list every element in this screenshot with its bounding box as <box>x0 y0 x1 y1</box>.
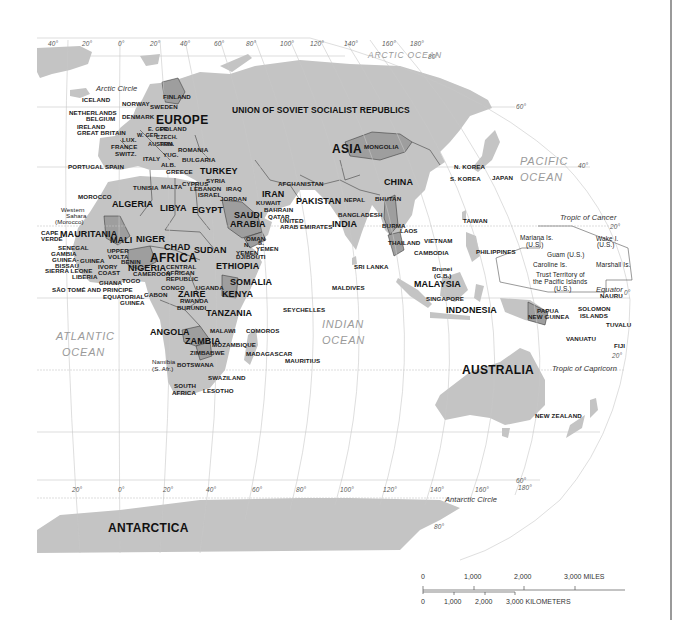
country-angola: ANGOLA <box>150 328 190 337</box>
scale-km-0: 0 <box>421 598 425 605</box>
country-cambodia: CAMBODIA <box>414 250 449 256</box>
country-sudan: SUDAN <box>194 246 227 255</box>
grat-bot-0: 0° <box>118 487 124 494</box>
country-saudi-2: ARABIA <box>230 220 266 229</box>
tropic-cancer-label: Tropic of Cancer <box>560 214 616 222</box>
country-great-britain: GREAT BRITAIN <box>77 130 126 136</box>
country-burundi: BURUNDI <box>177 305 206 311</box>
scale-km-3000: 3,000 KILOMETERS <box>506 598 571 605</box>
country-india: INDIA <box>332 220 357 229</box>
lat-n40: 40° <box>578 163 588 170</box>
country-malawi: MALAWI <box>210 328 236 334</box>
country-switz: SWITZ. <box>115 151 137 157</box>
country-vanuatu: VANUATU <box>566 336 596 342</box>
scale-miles-2000: 2,000 <box>514 573 532 580</box>
territory-mariana-2: (U.S.) <box>526 241 544 248</box>
country-nauru: NAURU <box>600 293 623 299</box>
grat-bot-w20: 20° <box>72 487 82 494</box>
country-greece: GREECE <box>166 169 193 175</box>
country-afghanistan: AFGHANISTAN <box>278 181 324 187</box>
pacific-ocean-label-2: OCEAN <box>520 171 563 183</box>
country-new-zealand: NEW ZEALAND <box>535 413 582 419</box>
country-fiji: FIJI <box>614 343 625 349</box>
country-morocco: MOROCCO <box>78 194 112 200</box>
country-mauritania: MAURITANIA <box>60 230 117 239</box>
country-south-africa-2: AFRICA <box>172 390 196 396</box>
country-liberia: LIBERIA <box>72 274 97 280</box>
territory-caroline: Caroline Is. <box>533 261 567 268</box>
country-eq-guinea-2: GUINEA <box>120 300 145 306</box>
country-philippines: PHILIPPINES <box>476 249 516 255</box>
grat-bot-e140: 140° <box>430 487 444 494</box>
country-yug: YUG. <box>163 152 179 158</box>
grat-bot-e20: 20° <box>163 487 173 494</box>
country-libya: LIBYA <box>160 204 187 213</box>
grat-top-e120: 120° <box>310 41 324 48</box>
grat-bot-e80: 80° <box>296 487 306 494</box>
lat-n20: 20° <box>610 224 620 231</box>
country-tunisia: TUNISIA <box>133 185 158 191</box>
grat-top-w40: 40° <box>48 41 58 48</box>
country-romania: ROMANIA <box>178 147 208 153</box>
country-uganda: UGANDA <box>196 285 224 291</box>
country-finland: FINLAND <box>163 94 191 100</box>
country-e-ger: E. GER. <box>148 127 169 133</box>
country-uae-2: ARAB EMIRATES <box>280 224 332 230</box>
country-malaysia: MALAYSIA <box>414 280 461 289</box>
atlantic-ocean-label-1: ATLANTIC <box>56 330 115 342</box>
country-comoros: COMOROS <box>246 328 279 334</box>
country-niger: NIGER <box>136 235 165 244</box>
country-denmark: DENMARK <box>122 114 154 120</box>
country-singapore: SINGAPORE <box>426 296 464 302</box>
country-bhutan: BHUTAN <box>375 196 401 202</box>
country-togo: TOGO <box>122 278 141 284</box>
country-seychelles: SEYCHELLES <box>283 307 325 313</box>
country-iceland: ICELAND <box>82 97 110 103</box>
country-djibouti: DJIBOUTI <box>236 254 266 260</box>
continent-asia: ASIA <box>332 143 362 155</box>
world-map <box>0 0 674 620</box>
grat-bot-e60: 60° <box>252 487 262 494</box>
country-china: CHINA <box>384 178 413 187</box>
country-bangladesh: BANGLADESH <box>338 212 383 218</box>
scale-km-2000: 2,000 <box>475 598 493 605</box>
territory-marshall: Marshall Is. <box>596 261 630 268</box>
grat-bot-e100: 100° <box>340 487 354 494</box>
country-portugal: PORTUGAL <box>68 164 104 170</box>
country-syria: SYRIA <box>206 178 225 184</box>
scale-miles-0: 0 <box>421 573 425 580</box>
grat-top-0: 0° <box>118 41 124 48</box>
country-algeria: ALGERIA <box>112 200 153 209</box>
antarctic-circle-label: Antarctic Circle <box>445 496 497 504</box>
country-hun: HUN. <box>160 142 174 148</box>
country-czech: CZECH. <box>156 135 177 141</box>
indian-ocean-label-1: INDIAN <box>322 318 364 330</box>
country-mozambique: MOZAMBIQUE <box>212 342 256 348</box>
country-bulgaria: BULGARIA <box>182 157 215 163</box>
lat-s60: 60° <box>516 478 526 485</box>
country-s-korea: S. KOREA <box>450 176 481 182</box>
country-turkey: TURKEY <box>200 167 238 176</box>
country-taiwan: TAIWAN <box>463 218 488 224</box>
lat-n60: 60° <box>516 104 526 111</box>
grat-top-e180: 180° <box>410 41 424 48</box>
indian-ocean-label-2: OCEAN <box>322 334 365 346</box>
country-laos: LAOS <box>400 228 418 234</box>
country-zimbabwe: ZIMBABWE <box>190 350 225 356</box>
country-iraq: IRAQ <box>226 186 242 192</box>
grat-top-e20: 20° <box>150 41 160 48</box>
grat-top-e80: 80° <box>246 41 256 48</box>
country-botswana: BOTSWANA <box>177 362 214 368</box>
country-indonesia: INDONESIA <box>446 306 497 315</box>
country-iran: IRAN <box>262 190 284 199</box>
country-pakistan: PAKISTAN <box>296 197 341 206</box>
country-japan: JAPAN <box>492 175 513 181</box>
grat-bot-e120: 120° <box>383 487 397 494</box>
scale-km-1000: 1,000 <box>444 598 462 605</box>
scale-miles-3000: 3,000 MILES <box>564 573 604 580</box>
pacific-ocean-label-1: PACIFIC <box>520 155 568 167</box>
country-jordan: JORDAN <box>220 196 247 202</box>
country-ethiopia: ETHIOPIA <box>216 262 259 271</box>
lat-eq: 0° <box>624 290 630 297</box>
country-somalia: SOMALIA <box>230 278 272 287</box>
